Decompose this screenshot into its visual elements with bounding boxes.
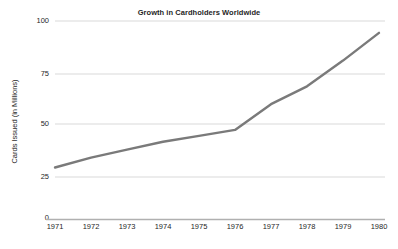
line-chart: Growth in Cardholders Worldwide Cards Is…	[0, 0, 398, 249]
data-series-line	[55, 33, 379, 168]
plot-area	[0, 0, 398, 249]
